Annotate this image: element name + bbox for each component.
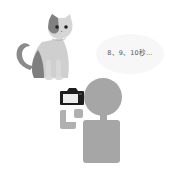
cat-illustration — [0, 0, 90, 90]
camera-icon — [59, 86, 85, 106]
speech-bubble-text: 8、9、10秒… — [96, 47, 164, 57]
person-head — [84, 78, 122, 116]
person-right-hand — [74, 109, 83, 118]
person-torso — [83, 120, 120, 163]
